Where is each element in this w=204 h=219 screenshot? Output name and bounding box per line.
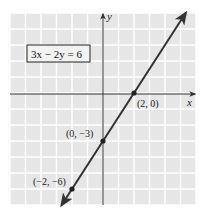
point-marker — [100, 138, 105, 143]
point-marker — [69, 186, 74, 191]
y-axis-label: y — [106, 10, 112, 22]
point-label-2-0: (2, 0) — [137, 98, 159, 110]
equation-text: 3x − 2y = 6 — [31, 48, 82, 60]
point-label-0-neg3: (0, −3) — [66, 128, 93, 140]
x-axis-label: x — [186, 96, 192, 108]
point-label-neg2-neg6: (−2, −6) — [33, 176, 66, 188]
point-marker — [131, 90, 136, 95]
coordinate-graph: x y (2, 0) (0, −3) (−2, −6) 3x − 2y = 6 — [0, 0, 204, 219]
